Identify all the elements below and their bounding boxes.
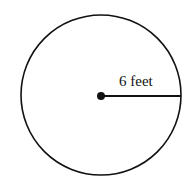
radius-label: 6 feet [119,73,154,89]
circle-diagram: 6 feet [0,0,191,178]
center-point [97,92,105,100]
